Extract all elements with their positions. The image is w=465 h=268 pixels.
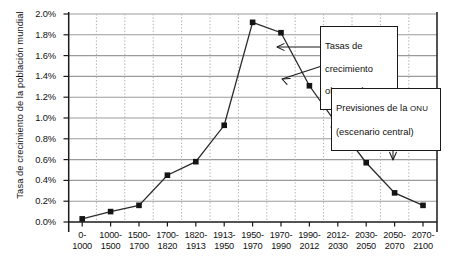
data-point-2070-2100 — [420, 203, 426, 209]
y-tick-label-3: 0.6% — [16, 155, 56, 165]
x-tick-label-12: 2070- 2100 — [401, 230, 445, 251]
y-tick-label-1: 0.2% — [16, 196, 56, 206]
y-tick-label-9: 1.8% — [16, 30, 56, 40]
callout-observed-line1: Tasas de — [325, 40, 393, 51]
y-tick-label-5: 1.0% — [16, 113, 56, 123]
callout-observed-line2: crecimiento — [325, 63, 393, 74]
callout-un-forecast: Previsiones de la ONU (escenario central… — [331, 88, 441, 151]
growth-rate-chart-figure: Tasa de crecimiento de la población mund… — [0, 0, 465, 268]
data-point-2050-2070 — [392, 190, 398, 196]
data-point-1970-1990 — [278, 30, 284, 36]
data-point-0-1000 — [79, 216, 85, 222]
data-point-1950-1970 — [250, 20, 256, 26]
y-tick-label-7: 1.4% — [16, 71, 56, 81]
data-point-1000-1500 — [108, 209, 114, 215]
y-tick-label-0: 0.0% — [16, 217, 56, 227]
data-point-1913-1950 — [221, 122, 227, 128]
callout-forecast-line1: Previsiones de la ONU — [336, 102, 436, 114]
y-tick-label-8: 1.6% — [16, 51, 56, 61]
y-tick-label-10: 2.0% — [16, 9, 56, 19]
y-tick-label-6: 1.2% — [16, 92, 56, 102]
y-tick-label-2: 0.4% — [16, 175, 56, 185]
callout-forecast-line1-text: Previsiones de la — [336, 102, 410, 113]
data-point-2030-2050 — [363, 160, 369, 166]
data-point-1500-1700 — [136, 203, 142, 209]
data-point-1700-1820 — [165, 172, 171, 178]
callout-forecast-line2: (escenario central) — [336, 126, 436, 137]
data-point-1990-2012 — [307, 83, 313, 89]
y-tick-label-4: 0.8% — [16, 134, 56, 144]
data-point-1820-1913 — [193, 159, 199, 165]
callout-forecast-onu-acronym: ONU — [410, 104, 428, 113]
y-tick-marks — [64, 14, 69, 222]
